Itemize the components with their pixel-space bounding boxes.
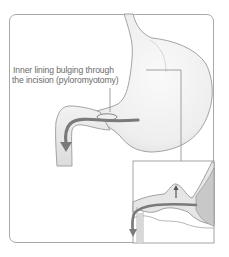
inset-cross-section <box>129 161 214 243</box>
callout-label-line-1: Inner lining bulging through <box>13 65 114 75</box>
stomach-illustration <box>0 0 229 257</box>
callout-label-line-2: the incision (pyloromyotomy) <box>12 75 119 85</box>
